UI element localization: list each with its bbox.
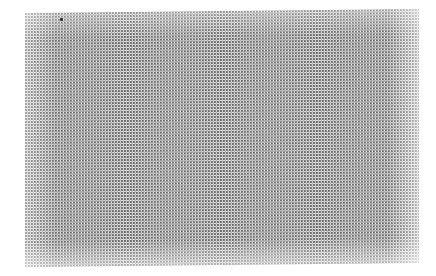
- dark-speck-mark: [60, 18, 63, 21]
- texture-edge-fade: [25, 9, 419, 267]
- halftone-texture-region: [25, 9, 419, 267]
- image-canvas: Halftone dot-pattern texture on white ba…: [0, 0, 436, 276]
